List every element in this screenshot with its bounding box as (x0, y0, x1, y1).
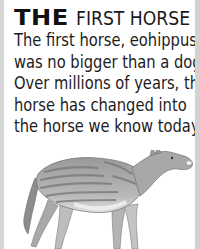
card-body: The first horse, eohippus, was no bigger… (14, 30, 200, 138)
body-line: horse has changed into (14, 95, 172, 117)
right-border (195, 0, 200, 249)
eohippus-illustration (8, 150, 199, 249)
body-line: Over millions of years, the (14, 73, 172, 95)
info-card: THEFIRST HORSE The first horse, eohippus… (4, 0, 195, 249)
heading-prefix: THE (14, 7, 69, 29)
heading-title: FIRST HORSE (76, 7, 190, 29)
card-heading: THEFIRST HORSE (14, 7, 200, 31)
body-line: the horse we know today. (14, 116, 172, 138)
body-line: The first horse, eohippus, (14, 30, 172, 52)
body-line: was no bigger than a dog. (14, 52, 172, 74)
